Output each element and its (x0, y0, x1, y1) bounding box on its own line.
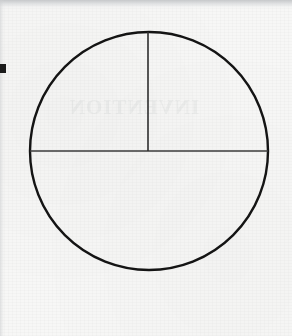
circle-fraction-figure (0, 0, 292, 336)
scanned-page: INVENTION (0, 0, 292, 336)
